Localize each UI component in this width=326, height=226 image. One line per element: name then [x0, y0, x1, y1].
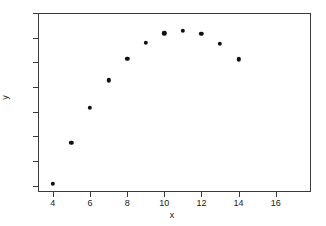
y-tick-mark [33, 62, 38, 63]
x-tick-mark [201, 192, 202, 197]
y-tick-mark [33, 186, 38, 187]
x-tick-label: 6 [75, 199, 105, 208]
y-tick-mark [33, 87, 38, 88]
y-axis-label: y [1, 83, 10, 113]
y-tick-mark [33, 13, 38, 14]
scatter-plot-figure: 345678910 46810121416 y x [0, 0, 326, 226]
x-tick-mark [90, 192, 91, 197]
plot-area [38, 13, 311, 192]
x-tick-mark [276, 192, 277, 197]
y-tick-mark [33, 161, 38, 162]
x-tick-mark [164, 192, 165, 197]
x-axis-label-text: x [170, 210, 175, 220]
x-tick-mark [53, 192, 54, 197]
x-tick-label: 10 [149, 199, 179, 208]
y-tick-mark [33, 136, 38, 137]
x-tick-label: 14 [224, 199, 254, 208]
x-tick-label: 12 [186, 199, 216, 208]
x-tick-mark [127, 192, 128, 197]
x-tick-label: 4 [38, 199, 68, 208]
x-tick-mark [239, 192, 240, 197]
x-axis-label: x [0, 211, 326, 220]
y-tick-mark [33, 112, 38, 113]
x-tick-label: 8 [112, 199, 142, 208]
x-tick-label: 16 [261, 199, 291, 208]
y-tick-mark [33, 38, 38, 39]
